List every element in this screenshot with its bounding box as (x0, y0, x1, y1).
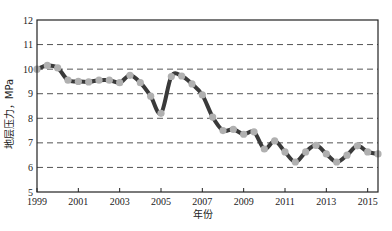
data-point-marker (312, 142, 319, 149)
data-point-marker (44, 62, 51, 69)
x-tick-label: 2007 (192, 196, 212, 207)
x-tick-label: 2011 (275, 196, 295, 207)
y-axis-ticks: 56789101112 (23, 15, 33, 198)
x-tick-label: 2015 (358, 196, 378, 207)
data-point-marker (178, 72, 185, 79)
x-tick-label: 2003 (110, 196, 130, 207)
data-point-marker (271, 137, 278, 144)
y-tick-label: 9 (28, 88, 33, 99)
data-point-marker (64, 77, 71, 84)
data-point-marker (137, 79, 144, 86)
data-point-marker (106, 77, 113, 84)
data-point-marker (364, 148, 371, 155)
data-point-marker (292, 158, 299, 165)
data-point-marker (323, 150, 330, 157)
data-point-marker (54, 64, 61, 71)
data-point-marker (343, 152, 350, 159)
x-tick-label: 2013 (316, 196, 336, 207)
data-point-marker (147, 93, 154, 100)
x-axis-title: 年份 (193, 208, 213, 220)
data-point-marker (116, 79, 123, 86)
data-point-marker (168, 73, 175, 80)
y-tick-label: 11 (23, 39, 33, 50)
data-point-marker (281, 148, 288, 155)
data-point-marker (85, 78, 92, 85)
y-tick-label: 12 (23, 15, 33, 26)
line-chart: 56789101112 1999200120032005200720092011… (0, 0, 392, 231)
data-point-marker (75, 78, 82, 85)
data-point-marker (126, 72, 133, 79)
data-point-marker (199, 91, 206, 98)
data-point-marker (95, 77, 102, 84)
y-tick-label: 10 (23, 64, 33, 75)
data-point-marker (230, 126, 237, 133)
data-point-marker (354, 142, 361, 149)
data-point-marker (250, 128, 257, 135)
data-point-marker (302, 148, 309, 155)
x-axis-ticks: 199920012003200520072009201120132015 (27, 188, 378, 207)
data-point-marker (209, 113, 216, 120)
y-tick-label: 8 (28, 113, 33, 124)
data-point-marker (188, 80, 195, 87)
data-point-marker (261, 145, 268, 152)
data-point-marker (219, 127, 226, 134)
x-tick-label: 2005 (151, 196, 171, 207)
y-axis-title: 地层压力，MPa (3, 79, 15, 149)
x-tick-label: 2009 (234, 196, 254, 207)
data-point-marker (157, 110, 164, 117)
x-tick-label: 1999 (27, 196, 47, 207)
y-tick-label: 6 (28, 162, 33, 173)
data-point-marker (333, 158, 340, 165)
data-point-marker (240, 131, 247, 138)
pressure-series (33, 62, 381, 166)
y-tick-label: 7 (28, 137, 33, 148)
x-tick-label: 2001 (68, 196, 88, 207)
